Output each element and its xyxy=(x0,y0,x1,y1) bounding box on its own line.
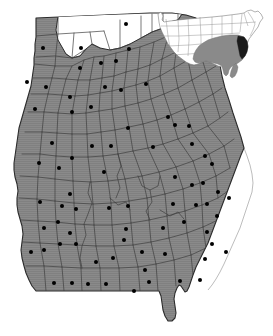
county-seat-dot xyxy=(227,196,231,200)
county-seat-dot xyxy=(173,123,177,127)
county-seat-dot xyxy=(78,66,82,70)
county-seat-dot xyxy=(52,281,56,285)
county-seat-dot xyxy=(114,59,118,63)
county-seat-dot xyxy=(29,250,33,254)
county-seat-dot xyxy=(109,144,113,148)
county-seat-dot xyxy=(42,248,46,252)
county-seat-dot xyxy=(171,202,175,206)
county-seat-dot xyxy=(224,250,228,254)
county-seat-dot xyxy=(203,257,207,261)
county-seat-dot xyxy=(173,175,177,179)
county-seat-dot xyxy=(124,227,128,231)
county-seat-dot xyxy=(68,231,72,235)
county-seat-dot xyxy=(58,242,62,246)
county-seat-dot xyxy=(182,220,186,224)
county-seat-dot xyxy=(89,105,93,109)
county-seat-dot xyxy=(74,242,78,246)
county-seat-dot xyxy=(107,206,111,210)
county-seat-dot xyxy=(147,280,151,284)
county-seat-dot xyxy=(127,47,131,51)
county-seat-dot xyxy=(70,156,74,160)
county-seat-dot xyxy=(198,278,202,282)
county-seat-dot xyxy=(140,250,144,254)
county-seat-dot xyxy=(194,203,198,207)
county-seat-dot xyxy=(37,161,41,165)
county-seat-dot xyxy=(50,141,54,145)
county-seat-dot xyxy=(119,88,123,92)
county-seat-dot xyxy=(60,204,64,208)
county-seat-dot xyxy=(151,145,155,149)
county-seat-dot xyxy=(124,22,128,26)
county-seat-dot xyxy=(126,126,130,130)
county-seat-dot xyxy=(143,268,147,272)
county-seat-dot xyxy=(42,226,46,230)
county-seat-dot xyxy=(187,124,191,128)
county-seat-dot xyxy=(57,166,61,170)
county-seat-dot xyxy=(205,202,209,206)
county-seat-dot xyxy=(102,170,106,174)
county-seat-dot xyxy=(38,200,42,204)
county-seat-dot xyxy=(201,181,205,185)
county-seat-dot xyxy=(56,220,60,224)
county-seat-dot xyxy=(132,289,136,293)
county-seat-dot xyxy=(216,190,220,194)
county-seat-dot xyxy=(122,238,126,242)
county-seat-dot xyxy=(210,162,214,166)
county-seat-dot xyxy=(166,115,170,119)
county-seat-dot xyxy=(41,46,45,50)
county-seat-dot xyxy=(144,82,148,86)
county-seat-dot xyxy=(126,204,130,208)
us-locator-inset[interactable] xyxy=(152,6,268,84)
county-seat-dot xyxy=(104,282,108,286)
county-seat-dot xyxy=(178,279,182,283)
map-figure xyxy=(0,0,273,336)
county-seat-dot xyxy=(203,154,207,158)
county-seat-dot xyxy=(103,85,107,89)
county-seat-dot xyxy=(163,252,167,256)
county-seat-dot xyxy=(33,107,37,111)
county-seat-dot xyxy=(68,192,72,196)
county-seat-dot xyxy=(68,95,72,99)
county-seat-dot xyxy=(25,80,29,84)
county-seat-dot xyxy=(210,242,214,246)
county-seat-dot xyxy=(215,214,219,218)
county-seat-dot xyxy=(70,110,74,114)
county-seat-dot xyxy=(94,260,98,264)
county-seat-dot xyxy=(70,281,74,285)
county-seat-dot xyxy=(44,85,48,89)
county-seat-dot xyxy=(90,144,94,148)
county-seat-dot xyxy=(99,61,103,65)
county-seat-dot xyxy=(79,46,83,50)
county-seat-dot xyxy=(74,207,78,211)
county-seat-dot xyxy=(111,256,115,260)
county-seat-dot xyxy=(190,142,194,146)
county-seat-dot xyxy=(161,226,165,230)
county-seat-dot xyxy=(205,230,209,234)
county-seat-dot xyxy=(190,183,194,187)
county-seat-dot xyxy=(86,282,90,286)
us-locator-inset-map xyxy=(152,6,268,84)
